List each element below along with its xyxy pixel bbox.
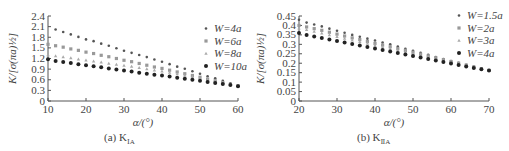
legend-item: W=8a — [214, 47, 242, 59]
data-series-w6a — [46, 43, 239, 88]
data-series-w3a — [297, 26, 490, 71]
x-tick-label: 50 — [195, 103, 207, 115]
y-tick-label: 2.1 — [31, 20, 45, 32]
data-series-w1.5a — [298, 18, 491, 71]
x-tick-label: 40 — [370, 103, 382, 115]
x-tick-label: 40 — [157, 103, 169, 115]
data-series-w8a — [46, 53, 239, 87]
y-tick-label: 0 — [40, 95, 46, 107]
x-axis-title: α/(°) — [133, 116, 154, 129]
caption-a: (a) KⅠA — [104, 131, 135, 146]
chart-panel-a: 10203040506000.30.60.91.21.51.82.12.4α/(… — [0, 0, 254, 151]
data-series-w10a — [46, 57, 240, 88]
y-tick-label: 1.5 — [31, 41, 45, 53]
y-tick-label: 0.9 — [31, 63, 45, 75]
x-tick-label: 60 — [233, 103, 245, 115]
legend: W=4aW=6aW=8aW=10a — [204, 22, 248, 72]
scatter-plot-k1a: 10203040506000.30.60.91.21.51.82.12.4α/(… — [0, 0, 254, 151]
data-series-w4a — [297, 31, 491, 73]
data-series-w4a — [54, 28, 239, 87]
y-axis-title: K/[σ(πa)½] — [6, 33, 19, 85]
data-series-w2a — [297, 24, 490, 72]
y-tick-label: 1.2 — [31, 52, 45, 64]
legend: W=1.5aW=2aW=3aW=4a — [457, 9, 503, 59]
legend-item: W=4a — [214, 22, 242, 34]
legend-item: W=4a — [467, 47, 495, 59]
y-axis-title: K/[σ(πa)½] — [254, 33, 267, 85]
x-tick-label: 30 — [119, 103, 131, 115]
legend-item: W=2a — [467, 22, 495, 34]
chart-panel-b: 20304050607000.050.10.150.20.250.30.350.… — [254, 0, 509, 151]
x-axis-title: α/(°) — [384, 116, 405, 129]
x-tick-label: 50 — [408, 103, 420, 115]
x-tick-label: 60 — [446, 103, 458, 115]
x-tick-label: 20 — [81, 103, 93, 115]
legend-item: W=3a — [467, 34, 495, 46]
legend-item: W=6a — [214, 35, 242, 47]
y-tick-label: 1.8 — [31, 31, 45, 43]
x-tick-label: 70 — [484, 103, 496, 115]
legend-item: W=1.5a — [467, 9, 503, 21]
y-tick-label: 0.3 — [31, 84, 45, 96]
y-tick-label: 2.4 — [31, 10, 45, 22]
y-tick-label: 0.6 — [31, 73, 45, 85]
y-tick-label: 0.45 — [277, 10, 297, 22]
x-tick-label: 30 — [332, 103, 344, 115]
caption-b: (b) KⅡA — [357, 131, 390, 146]
legend-item: W=10a — [214, 60, 248, 72]
scatter-plot-k2a: 20304050607000.050.10.150.20.250.30.350.… — [254, 0, 509, 151]
